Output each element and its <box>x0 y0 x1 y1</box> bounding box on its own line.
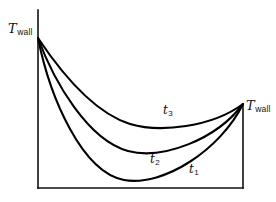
curve-t3 <box>38 38 243 128</box>
t2-subscript: 2 <box>155 158 159 167</box>
temperature-profile-figure: Twall Twall t3 t2 t1 <box>0 0 276 202</box>
t3-subscript: 3 <box>168 109 172 118</box>
wall-right-symbol: T <box>246 98 255 113</box>
label-wall-temperature-right: Twall <box>246 99 271 114</box>
label-curve-t3: t3 <box>163 104 173 118</box>
figure-canvas <box>0 0 276 202</box>
wall-right-subscript: wall <box>255 104 270 114</box>
wall-left-symbol: T <box>8 21 17 36</box>
wall-left-subscript: wall <box>17 27 32 37</box>
label-wall-temperature-left: Twall <box>8 22 33 37</box>
curve-t2 <box>38 38 243 153</box>
label-curve-t1: t1 <box>189 163 199 177</box>
label-curve-t2: t2 <box>150 153 160 167</box>
t1-subscript: 1 <box>194 168 198 177</box>
curve-t1 <box>38 38 243 181</box>
